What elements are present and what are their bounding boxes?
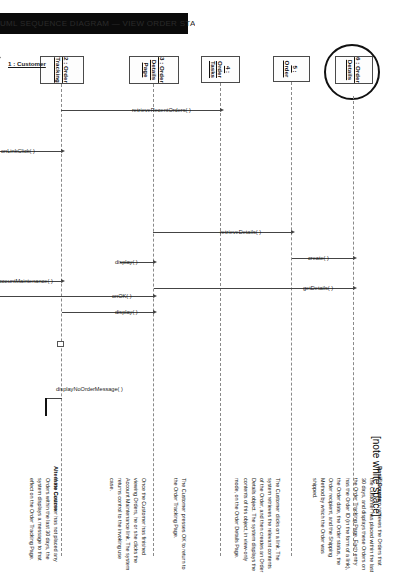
lifeline-label-order-details-page: 3 : Order Details Page (142, 57, 165, 83)
lifeline-dash-order (291, 82, 292, 556)
lifeline-dash-order-tracking (61, 84, 62, 556)
message-label-onLinkClick: onLinkClick( ) (1, 148, 35, 154)
message-label-create: create( ) (308, 255, 329, 261)
message-label-displayNoOrderMessage: displayNoOrderMessage( ) (56, 386, 123, 392)
lifeline-head-order-tracking[interactable]: 2 : Order Tracking (40, 56, 84, 84)
message-line-displayNoOrderMessage-return (45, 398, 47, 416)
lifeline-dash-order-details-page (153, 84, 154, 556)
alternate-course-paragraph-1: If the Customer has not placed any Order… (0, 478, 60, 573)
message-label-getDetails: getDetails( ) (303, 285, 333, 291)
basic-course-paragraph-2: The Customer clicks on a link. The syste… (202, 478, 282, 573)
lifeline-head-order-details[interactable]: 6 : Order Details (335, 56, 373, 84)
redaction-bar-text: UML SEQUENCE DIAGRAM — VIEW ORDER STATUS… (0, 19, 195, 28)
message-label-display-2: display( ) (115, 309, 138, 315)
message-label-onAccountMaintenance: onAccountMaintenance( ) (0, 278, 53, 284)
message-arrowhead-create (353, 256, 357, 260)
lifeline-label-order-tasks: 4 : Order Tasks (209, 57, 232, 82)
message-arrowhead-onLinkClick (61, 149, 65, 153)
message-label-retrieveRecentOrders: retrieveRecentOrders( ) (132, 107, 191, 113)
message-arrowhead-onAccountMaintenance (61, 279, 65, 283)
message-arrowhead-getDetails (353, 286, 357, 290)
actor-leg-upper (0, 57, 1, 68)
message-line-display-2 (62, 312, 154, 313)
lifeline-head-order-tasks[interactable]: 4 : Order Tasks (201, 56, 240, 83)
lifeline-label-order: 5 : Order (284, 57, 300, 81)
redaction-bar: UML SEQUENCE DIAGRAM — VIEW ORDER STATUS… (0, 13, 188, 34)
message-arrowhead-onOK (153, 294, 157, 298)
lifeline-head-order[interactable]: 5 : Order (273, 56, 310, 82)
message-arrowhead-display-2 (153, 310, 157, 314)
actor-label-customer: 1 : Customer (8, 60, 46, 67)
message-label-display-1: display( ) (115, 259, 138, 265)
message-arrowhead-retrieveRecentOrders (220, 108, 224, 112)
message-arrowhead-display-1 (153, 260, 157, 264)
message-line-displayNoOrderMessage (46, 398, 62, 399)
message-label-retrieveDetails: retrieveDetails( ) (220, 229, 261, 235)
activation-bar-order-tracking (57, 341, 64, 347)
message-arrowhead-retrieveDetails (291, 230, 295, 234)
lifeline-label-order-details: 6 : Order Details (346, 57, 362, 83)
actor-customer[interactable]: 1 : Customer (0, 30, 10, 90)
message-label-onOK: onOK( ) (112, 293, 132, 299)
lifeline-head-order-details-page[interactable]: 3 : Order Details Page (129, 56, 179, 84)
basic-course-paragraph-4: Once the Customer has finished viewing O… (78, 478, 148, 573)
basic-course-paragraph-1: The system retrieves the Orders that the… (298, 478, 384, 573)
lifeline-label-order-tracking: 2 : Order Tracking (54, 57, 70, 83)
basic-course-paragraph-3: The Customer presses OK to return to the… (158, 478, 188, 573)
